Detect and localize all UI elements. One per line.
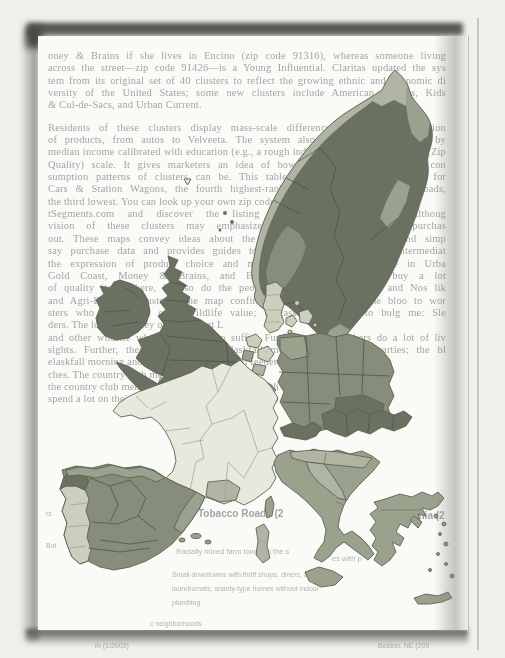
scanned-book-page-view: oney & Brains if she lives in Encino (zi… [0, 0, 505, 658]
below-page-fragment-right: Beldon, NE (200 [378, 642, 429, 649]
book-page: oney & Brains if she lives in Encino (zi… [38, 36, 469, 630]
facing-page-edge [477, 18, 479, 650]
shetland-isles [219, 211, 235, 232]
europe-choropleth-map [38, 36, 468, 630]
page-left-shadow [20, 30, 38, 640]
italy [256, 449, 380, 587]
page-top-shadow [27, 23, 463, 36]
ireland [96, 280, 150, 340]
below-page-fragment-left: m (1/2003) [95, 642, 129, 649]
faroe-mark [184, 179, 191, 185]
spine-shadow [434, 36, 468, 630]
